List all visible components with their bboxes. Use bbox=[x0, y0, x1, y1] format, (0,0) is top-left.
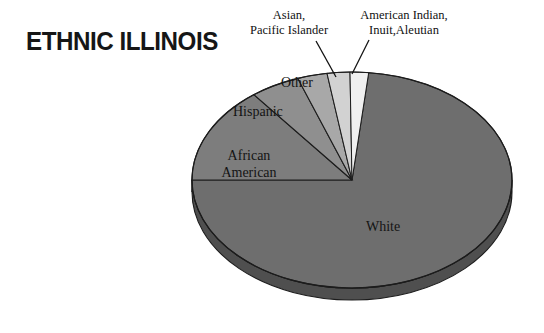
slice-label-african-american-line2: American bbox=[206, 165, 292, 182]
callout-label-american-indian-line1: American Indian, bbox=[341, 8, 467, 23]
chart-canvas: ETHNIC ILLINOIS bbox=[0, 0, 544, 333]
slice-label-african-american-line1: African bbox=[206, 148, 292, 165]
leader-line-american-indian bbox=[352, 40, 369, 74]
callout-label-american-indian: American Indian, Inuit,Aleutian bbox=[341, 8, 467, 38]
slice-label-african-american: African American bbox=[206, 148, 292, 181]
callout-label-asian-line1: Asian, bbox=[241, 8, 337, 23]
slice-label-white: White bbox=[366, 219, 400, 236]
callout-label-asian-pacific-islander: Asian, Pacific Islander bbox=[241, 8, 337, 38]
callout-label-asian-line2: Pacific Islander bbox=[241, 23, 337, 38]
slice-label-other: Other bbox=[281, 75, 313, 92]
leader-line-asian bbox=[316, 41, 336, 77]
slice-label-hispanic: Hispanic bbox=[233, 104, 283, 121]
callout-leader-lines bbox=[316, 40, 369, 77]
callout-label-american-indian-line2: Inuit,Aleutian bbox=[341, 23, 467, 38]
